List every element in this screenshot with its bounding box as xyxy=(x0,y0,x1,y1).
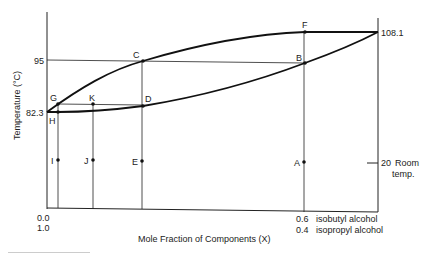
point-h xyxy=(56,110,60,114)
point-f xyxy=(303,30,307,34)
x-tick-0-0: 0.0 xyxy=(37,213,50,223)
x-axis-label: Mole Fraction of Components (X) xyxy=(138,234,271,244)
x-tick-0-4: 0.4 xyxy=(296,225,309,235)
label-c: C xyxy=(133,50,140,60)
y-axis-label: Temperature (°C) xyxy=(12,71,22,140)
component-isopropyl: isopropyl alcohol xyxy=(316,225,383,235)
phase-diagram: C D G H K F B I J E A 95 82.3 108.1 20 R… xyxy=(0,0,429,253)
point-b xyxy=(303,61,307,65)
x-tick-1-0: 1.0 xyxy=(37,223,50,233)
room-temp-label-1: Room xyxy=(395,158,419,168)
point-c xyxy=(141,59,145,63)
point-j xyxy=(91,158,95,162)
label-k: K xyxy=(89,93,95,103)
label-a: A xyxy=(294,158,300,168)
y-tick-108-1: 108.1 xyxy=(381,28,404,38)
room-temp-label-2: temp. xyxy=(392,169,415,179)
line-95 xyxy=(47,60,305,63)
label-g: G xyxy=(50,93,57,103)
point-e xyxy=(140,159,144,163)
point-a xyxy=(302,160,306,164)
point-d xyxy=(141,104,145,108)
y-tick-82-3: 82.3 xyxy=(26,108,44,118)
label-h: H xyxy=(49,116,56,126)
label-e: E xyxy=(132,157,138,167)
point-i xyxy=(56,158,60,162)
label-f: F xyxy=(302,20,308,30)
room-temp-value: 20 xyxy=(381,158,391,168)
component-isobutyl: isobutyl alcohol xyxy=(316,214,378,224)
label-d: D xyxy=(145,94,152,104)
tie-line-gd xyxy=(58,104,143,105)
y-tick-95: 95 xyxy=(34,56,44,66)
bottom-axis xyxy=(47,208,378,212)
vapor-curve xyxy=(47,32,378,112)
label-i: I xyxy=(51,156,54,166)
label-b: B xyxy=(296,53,302,63)
label-j: J xyxy=(84,156,89,166)
x-tick-0-6: 0.6 xyxy=(296,214,309,224)
